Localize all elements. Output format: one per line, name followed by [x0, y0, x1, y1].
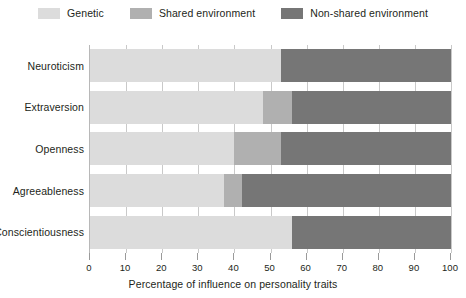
y-axis-labels: Neuroticism Extraversion Openness Agreea… — [0, 45, 84, 253]
bar-segment[interactable] — [234, 132, 281, 165]
bar-segment[interactable] — [281, 49, 451, 82]
bar-row[interactable] — [90, 216, 451, 249]
x-tick-80 — [378, 253, 379, 260]
x-tick-label-90: 90 — [409, 262, 420, 273]
bar-rows — [90, 45, 451, 253]
bar-segment[interactable] — [90, 91, 263, 124]
bar-segment[interactable] — [90, 132, 234, 165]
legend-item-shared-environment[interactable]: Shared environment — [130, 8, 255, 19]
bar-segment[interactable] — [292, 91, 451, 124]
x-tick-20 — [161, 253, 162, 260]
bar-segment[interactable] — [90, 49, 281, 82]
bar-segment[interactable] — [263, 91, 292, 124]
x-tick-40 — [233, 253, 234, 260]
bar-row[interactable] — [90, 132, 451, 165]
legend-swatch-shared-environment — [130, 8, 152, 19]
bar-segment[interactable] — [281, 132, 451, 165]
x-axis: 0102030405060708090100 — [89, 253, 450, 254]
x-tick-label-30: 30 — [192, 262, 203, 273]
x-tick-label-50: 50 — [264, 262, 275, 273]
stacked-bar-chart: Genetic Shared environment Non-shared en… — [0, 0, 466, 298]
y-label-extraversion: Extraversion — [0, 91, 84, 124]
chart-legend: Genetic Shared environment Non-shared en… — [0, 8, 466, 19]
bar-segment[interactable] — [242, 174, 451, 207]
bar-segment[interactable] — [90, 216, 292, 249]
y-label-agreeableness: Agreeableness — [0, 174, 84, 207]
x-tick-100 — [450, 253, 451, 260]
bar-segment[interactable] — [224, 174, 242, 207]
x-tick-label-0: 0 — [86, 262, 91, 273]
x-tick-label-40: 40 — [228, 262, 239, 273]
x-tick-50 — [270, 253, 271, 260]
x-tick-90 — [414, 253, 415, 260]
x-tick-label-80: 80 — [373, 262, 384, 273]
legend-item-non-shared-environment[interactable]: Non-shared environment — [281, 8, 428, 19]
bar-row[interactable] — [90, 49, 451, 82]
legend-swatch-genetic — [38, 8, 60, 19]
legend-label-genetic: Genetic — [67, 8, 104, 19]
x-tick-60 — [306, 253, 307, 260]
x-tick-70 — [342, 253, 343, 260]
x-axis-title: Percentage of influence on personality t… — [0, 278, 466, 290]
legend-label-non-shared-environment: Non-shared environment — [310, 8, 428, 19]
legend-swatch-non-shared-environment — [281, 8, 303, 19]
x-tick-label-100: 100 — [442, 262, 458, 273]
bar-row[interactable] — [90, 91, 451, 124]
x-tick-10 — [125, 253, 126, 260]
legend-label-shared-environment: Shared environment — [159, 8, 255, 19]
x-tick-label-20: 20 — [156, 262, 167, 273]
bar-segment[interactable] — [90, 174, 224, 207]
x-tick-label-70: 70 — [336, 262, 347, 273]
bar-row[interactable] — [90, 174, 451, 207]
bar-segment[interactable] — [292, 216, 451, 249]
y-label-openness: Openness — [0, 132, 84, 165]
x-tick-label-10: 10 — [120, 262, 131, 273]
y-label-neuroticism: Neuroticism — [0, 49, 84, 82]
legend-item-genetic[interactable]: Genetic — [38, 8, 104, 19]
gridline-100 — [451, 45, 452, 253]
x-tick-label-60: 60 — [300, 262, 311, 273]
x-tick-30 — [197, 253, 198, 260]
x-tick-0 — [89, 253, 90, 260]
plot-area — [89, 45, 451, 253]
y-label-conscientiousness: Conscientiousness — [0, 216, 84, 249]
